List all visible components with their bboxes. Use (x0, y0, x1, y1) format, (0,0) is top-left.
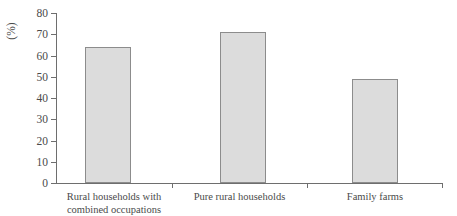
plot-area: 80706050403020100 (56, 13, 443, 184)
y-axis-tick-label: 30 (22, 114, 48, 124)
y-axis-tick-label: 70 (22, 29, 48, 39)
y-axis-tick-mark (51, 56, 56, 57)
y-axis-tick-label: 50 (22, 72, 48, 82)
y-axis-tick-mark (51, 98, 56, 99)
x-axis-tick-mark (172, 183, 173, 188)
y-axis-tick-mark (51, 141, 56, 142)
y-axis-tick-label-text: 80 (24, 8, 48, 18)
y-axis-tick-mark (51, 183, 56, 184)
y-axis-line (56, 13, 57, 184)
x-axis-line (56, 183, 443, 184)
y-axis-tick-label-text: 50 (24, 72, 48, 82)
bar-chart-figure: (%) 80706050403020100 Rural households w… (0, 0, 457, 216)
x-axis-tick-mark (442, 183, 443, 188)
y-axis-tick-label: 20 (22, 136, 48, 146)
y-axis-tick-label-text: 0 (24, 178, 48, 188)
y-axis-tick-label: 0 (22, 178, 48, 188)
y-axis-tick-label: 80 (22, 8, 48, 18)
y-axis-tick-label-text: 40 (24, 93, 48, 103)
x-axis-category-label: Rural households with combined occupatio… (44, 191, 184, 216)
y-axis-tick-label-text: 30 (24, 114, 48, 124)
y-axis-tick-label-text: 70 (24, 29, 48, 39)
y-axis-tick-label-text: 20 (24, 136, 48, 146)
y-axis-tick-label: 60 (22, 51, 48, 61)
y-axis-tick-label-text: 10 (24, 157, 48, 167)
x-axis-category-label: Family farms (305, 191, 445, 204)
bar (352, 79, 398, 183)
y-axis-tick-mark (51, 13, 56, 14)
bar (220, 32, 266, 183)
y-axis-tick-label-text: 60 (24, 51, 48, 61)
y-axis-tick-mark (51, 77, 56, 78)
x-axis-category-label: Pure rural households (170, 191, 310, 204)
y-axis-tick-mark (51, 119, 56, 120)
y-axis-tick-label: 10 (22, 157, 48, 167)
y-axis-tick-label: 40 (22, 93, 48, 103)
x-axis-tick-mark (307, 183, 308, 188)
y-axis-tick-mark (51, 34, 56, 35)
bar (85, 47, 131, 183)
y-axis-tick-mark (51, 162, 56, 163)
